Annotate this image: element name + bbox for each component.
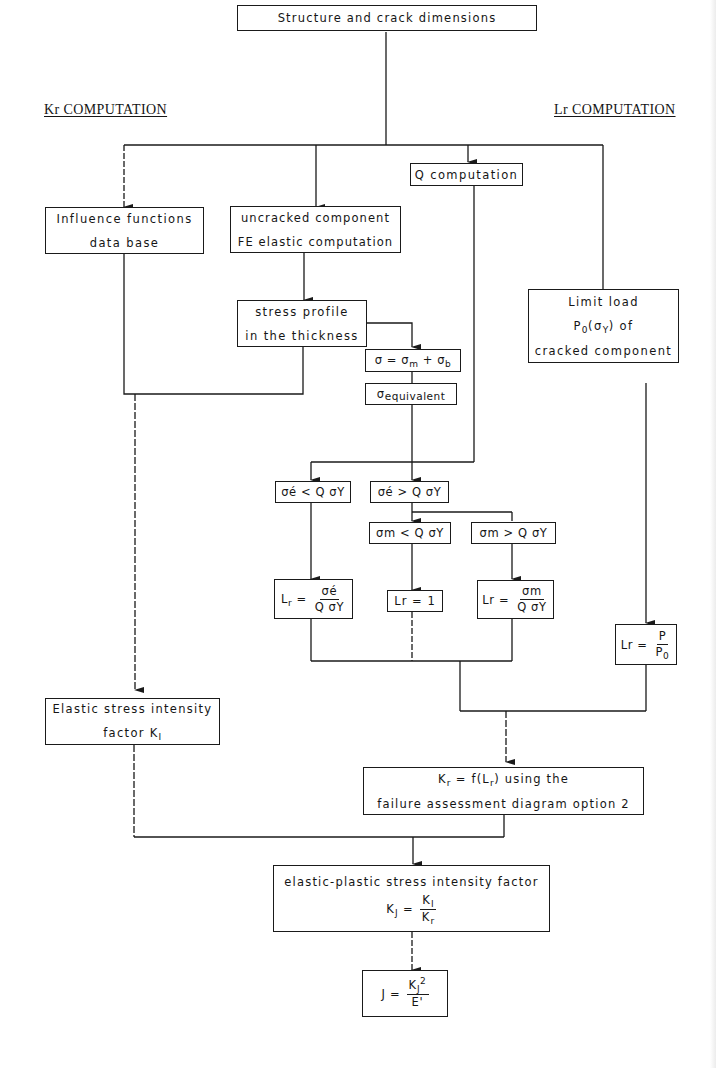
node-cond-sigma-e-greater: σé > Q σY	[370, 481, 449, 503]
node-lr-sigma-e: Lr = σéQ σY	[274, 579, 353, 619]
node-sigma-decomposition: σ = σm + σb	[365, 349, 461, 372]
node-label-line1: elastic-plastic stress intensity factor	[284, 871, 538, 893]
p-symbol: P	[574, 319, 582, 333]
node-cond-sigma-m-less: σm < Q σY	[369, 522, 451, 544]
node-label-line1: Elastic stress intensity	[53, 697, 213, 721]
node-structure-crack-dimensions: Structure and crack dimensions	[237, 5, 537, 31]
subscript: 0	[582, 325, 588, 335]
node-label: σm > Q σY	[480, 521, 548, 545]
lhs: Lr =	[621, 633, 648, 657]
node-limit-load: Limit load P0(σY) of cracked component	[528, 289, 679, 363]
node-label-line2: in the thickness	[245, 324, 358, 348]
node-label: Lr = 1	[394, 589, 435, 613]
node-cond-sigma-e-less: σé < Q σY	[275, 481, 351, 503]
node-label-line2: data base	[90, 231, 160, 255]
node-label: σ = σm + σb	[375, 348, 452, 373]
node-label: σé < Q σY	[281, 480, 345, 504]
node-label-line3: cracked component	[535, 339, 673, 363]
node-label: Q computation	[415, 163, 519, 187]
node-label-line1: uncracked component	[241, 206, 390, 230]
fraction: σéQ σY	[313, 584, 346, 615]
subscript: Y	[603, 325, 609, 335]
lhs: Lr =	[482, 588, 509, 612]
sigma-symbol: σ	[377, 387, 385, 401]
lhs: KJ =	[386, 898, 414, 921]
node-sigma-equivalent: σequivalent	[365, 383, 457, 405]
subscript-b: b	[445, 359, 451, 369]
node-cond-sigma-m-greater: σm > Q σY	[471, 522, 556, 544]
equation: Lr = PP0	[621, 629, 672, 661]
node-label-line2: factor KI	[103, 721, 161, 746]
node-label-line2: FE elastic computation	[238, 230, 393, 254]
fraction: KJ2E'	[407, 978, 429, 1010]
node-q-computation: Q computation	[410, 163, 523, 186]
fraction: σmQ σY	[515, 584, 548, 615]
subscript-equivalent: equivalent	[385, 390, 446, 402]
sigma-expression: + σ	[418, 353, 445, 367]
node-label-line1: Limit load	[568, 290, 639, 314]
kr-computation-heading: Kr COMPUTATION	[44, 102, 167, 118]
equation: Lr = σéQ σY	[281, 584, 346, 615]
node-label-line1: Influence functions	[56, 207, 192, 231]
fraction: PP0	[654, 629, 672, 661]
lhs: Lr =	[281, 587, 307, 612]
fraction: KIKr	[420, 893, 437, 926]
node-label-line1: Kr = f(Lr) using the	[438, 767, 569, 792]
equation: J = KJ2E'	[381, 978, 428, 1010]
node-label: σequivalent	[377, 382, 446, 406]
node-kr-failure-assessment: Kr = f(Lr) using the failure assessment …	[363, 767, 644, 815]
lr-computation-heading: Lr COMPUTATION	[554, 102, 676, 118]
node-label: σé > Q σY	[378, 480, 442, 504]
lhs: J =	[381, 982, 400, 1006]
sigma-expression: σ = σ	[375, 353, 410, 367]
sigma-open: (σ	[588, 319, 603, 333]
node-label-line2: failure assessment diagram option 2	[377, 792, 630, 816]
equation: Lr = σmQ σY	[482, 584, 548, 615]
node-lr-p-over-p0: Lr = PP0	[615, 624, 677, 665]
node-stress-profile: stress profile in the thickness	[237, 300, 367, 347]
node-lr-sigma-m: Lr = σmQ σY	[477, 580, 554, 619]
node-j-integral: J = KJ2E'	[362, 970, 448, 1017]
node-label-line1: stress profile	[255, 300, 349, 324]
node-label: σm < Q σY	[376, 521, 444, 545]
node-uncracked-fe-computation: uncracked component FE elastic computati…	[230, 206, 401, 253]
subscript-m: m	[409, 359, 418, 369]
node-lr-one: Lr = 1	[387, 590, 443, 612]
node-label-line2: P0(σY) of	[574, 314, 634, 339]
node-elastic-stress-intensity: Elastic stress intensity factor KI	[45, 698, 220, 745]
node-elastic-plastic-kj: elastic-plastic stress intensity factor …	[273, 865, 550, 932]
of-text: ) of	[609, 319, 634, 333]
equation: KJ = KIKr	[386, 893, 437, 926]
node-influence-functions: Influence functions data base	[45, 207, 204, 254]
node-label: Structure and crack dimensions	[278, 6, 497, 30]
